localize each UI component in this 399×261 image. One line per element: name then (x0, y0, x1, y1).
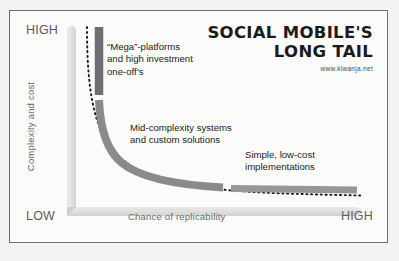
y-axis (67, 26, 76, 217)
source-url: www.kiwanja.net (207, 65, 373, 72)
title-block: SOCIAL MOBILE'S LONG TAIL www.kiwanja.ne… (207, 23, 373, 72)
diagram-canvas: SOCIAL MOBILE'S LONG TAIL www.kiwanja.ne… (0, 0, 399, 261)
title-line-1: SOCIAL MOBILE'S (207, 23, 373, 42)
annotation-3-line-1: Simple, low-cost (245, 149, 315, 161)
annotation-1-line-2: and high investment (107, 53, 193, 65)
x-axis-title: Chance of replicability (128, 211, 226, 222)
annotation-1-line-1: “Mega”-platforms (107, 41, 193, 53)
annotation-mid-complexity: Mid-complexity systems and custom soluti… (130, 122, 232, 147)
y-axis-high-label: HIGH (26, 23, 58, 37)
annotation-2-line-1: Mid-complexity systems (130, 122, 232, 134)
x-axis-high-label: HIGH (341, 209, 373, 223)
title-line-2: LONG TAIL (207, 42, 373, 61)
annotation-2-line-2: and custom solutions (130, 134, 232, 146)
curve-segment-tail (231, 189, 357, 191)
annotation-simple-low-cost: Simple, low-cost implementations (245, 149, 315, 174)
annotation-3-line-2: implementations (245, 161, 315, 173)
annotation-1-line-3: one-off’s (107, 66, 193, 78)
diagram-frame: SOCIAL MOBILE'S LONG TAIL www.kiwanja.ne… (9, 10, 388, 243)
annotation-mega-platforms: “Mega”-platforms and high investment one… (107, 41, 193, 78)
y-axis-low-label: LOW (26, 209, 55, 223)
y-axis-title: Complexity and cost (25, 79, 36, 175)
